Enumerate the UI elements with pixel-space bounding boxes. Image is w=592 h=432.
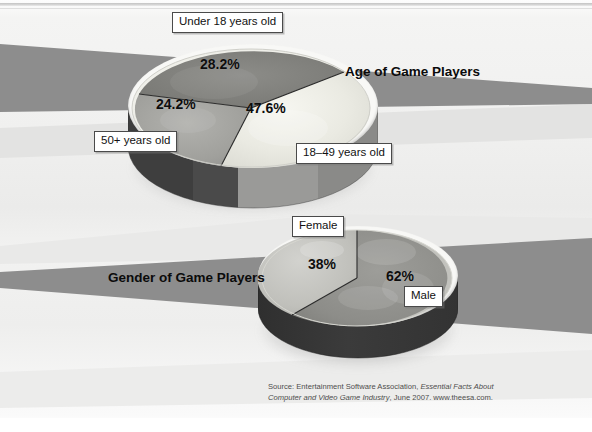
page-bottom-edge — [0, 418, 592, 432]
top-rule-thin — [0, 8, 592, 9]
gender-pie-top-face — [258, 224, 458, 332]
gender-percent-female: 38% — [308, 256, 336, 272]
callout-female[interactable]: Female — [292, 216, 344, 237]
source-note: Source: Entertainment Software Associati… — [268, 381, 568, 403]
age-percent-18-49: 47.6% — [246, 100, 286, 116]
figure-page: 28.2% 24.2% 47.6% Under 18 years old 50+… — [0, 0, 592, 432]
source-text-a: Source: Entertainment Software Associati… — [268, 382, 420, 391]
source-text-b: , June 2007. www.theesa.com. — [389, 393, 492, 402]
age-percent-under18: 28.2% — [200, 56, 240, 72]
age-percent-50plus: 24.2% — [156, 96, 196, 112]
source-title-italic: Essential Facts About — [420, 382, 493, 391]
gender-percent-male: 62% — [386, 268, 414, 284]
callout-50-plus[interactable]: 50+ years old — [94, 131, 177, 152]
age-chart-title: Age of Game Players — [345, 64, 480, 79]
source-title-italic-2: Computer and Video Game Industry — [268, 393, 389, 402]
callout-under-18[interactable]: Under 18 years old — [172, 12, 283, 33]
top-rule-thick — [0, 3, 592, 6]
gender-chart-title: Gender of Game Players — [108, 270, 265, 285]
callout-male[interactable]: Male — [404, 286, 443, 307]
age-pie-chart: 28.2% 24.2% 47.6% — [128, 38, 378, 208]
callout-18-49[interactable]: 18–49 years old — [296, 143, 392, 164]
